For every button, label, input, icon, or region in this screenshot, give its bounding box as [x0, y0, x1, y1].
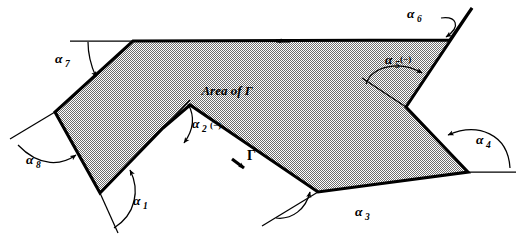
angle-label-a3: α 3 — [355, 204, 370, 222]
a2-sign: (−) — [210, 120, 221, 130]
a6-reference-ray — [450, 8, 472, 40]
area-label-group: Area of Γ — [200, 83, 252, 98]
a2-subscript: 2 — [201, 124, 207, 134]
angle-label-a1: α 1 — [133, 193, 148, 211]
a6-subscript: 6 — [417, 14, 422, 24]
a7-subscript: 7 — [65, 59, 71, 69]
angle-label-a4: α 4 — [476, 132, 491, 150]
a1-arc-icon — [114, 170, 135, 228]
a7-base: α — [55, 51, 63, 66]
angle-label-a8: α 8 — [26, 152, 41, 170]
a3-base: α — [355, 204, 363, 219]
a3-subscript: 3 — [364, 212, 370, 222]
gamma-label: Γ — [247, 148, 256, 163]
a4-base: α — [476, 132, 484, 147]
a1-base: α — [133, 193, 141, 208]
a1-subscript: 1 — [143, 201, 148, 211]
a8-subscript: 8 — [36, 160, 41, 170]
a6-base: α — [407, 6, 415, 21]
angle-marker-a3 — [262, 192, 318, 226]
a8-base: α — [26, 152, 34, 167]
gamma-curve-label-group: Γ — [247, 148, 256, 163]
area-of-gamma-label: Area of Γ — [200, 83, 252, 98]
gamma-edge-arrow-icon — [232, 159, 244, 168]
a8-reference-ray — [10, 112, 55, 139]
a4-subscript: 4 — [485, 140, 491, 150]
a7-arc-icon — [88, 42, 96, 77]
a5-base: α — [385, 52, 393, 67]
a3-reference-ray — [262, 192, 318, 226]
a2-base: α — [192, 116, 200, 131]
geometry-diagram: Area of Γ Γ α 1 α 2 (−) α 3 α 4 α 5 (−) — [0, 0, 518, 235]
angle-label-a7: α 7 — [55, 51, 71, 69]
a5-sign: (−) — [400, 54, 411, 64]
figure-container: Area of Γ Γ α 1 α 2 (−) α 3 α 4 α 5 (−) — [0, 0, 518, 235]
angle-label-a6: α 6 — [407, 6, 422, 24]
